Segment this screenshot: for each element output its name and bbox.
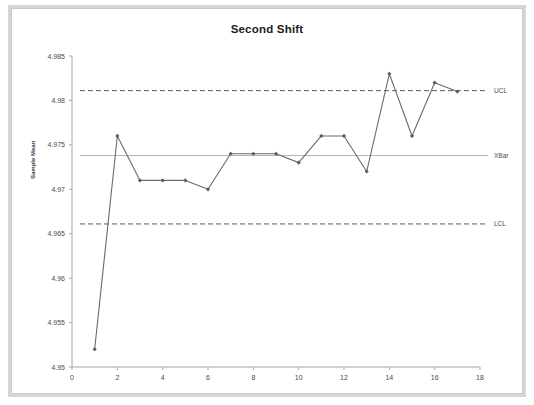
y-tick-label: 4.98 [51, 97, 65, 104]
data-point-marker [387, 72, 391, 76]
control-limit-labels: UCLXBarLCL [494, 87, 509, 227]
x-tick-label: 6 [206, 374, 210, 381]
x-axis-ticks: 024681012141618 [70, 367, 484, 381]
x-tick-label: 16 [431, 374, 439, 381]
x-tick-label: 4 [161, 374, 165, 381]
y-tick-label: 4.985 [47, 53, 65, 60]
y-tick-label: 4.965 [47, 230, 65, 237]
x-tick-label: 2 [115, 374, 119, 381]
x-tick-label: 12 [340, 374, 348, 381]
y-tick-label: 4.96 [51, 275, 65, 282]
x-tick-label: 14 [385, 374, 393, 381]
y-tick-label: 4.95 [51, 364, 65, 371]
x-tick-label: 0 [70, 374, 74, 381]
x-tick-label: 8 [251, 374, 255, 381]
y-tick-label: 4.975 [47, 141, 65, 148]
data-series-line [95, 74, 458, 349]
x-tick-label: 10 [295, 374, 303, 381]
data-point-marker [433, 81, 437, 85]
data-point-marker [183, 178, 187, 182]
y-tick-label: 4.97 [51, 186, 65, 193]
chart-plot-area: 4.954.9554.964.9654.974.9754.984.985 024… [12, 9, 524, 395]
control-limit-label-xbar: XBar [494, 152, 509, 159]
data-point-marker [93, 347, 97, 351]
y-tick-label: 4.955 [47, 319, 65, 326]
x-tick-label: 18 [476, 374, 484, 381]
data-point-marker [161, 178, 165, 182]
data-point-marker [410, 134, 414, 138]
data-point-marker [115, 134, 119, 138]
control-limit-label-ucl: UCL [494, 87, 507, 94]
control-limit-label-lcl: LCL [494, 220, 506, 227]
y-axis-ticks: 4.954.9554.964.9654.974.9754.984.985 [47, 53, 72, 371]
data-point-marker [138, 178, 142, 182]
data-point-marker [455, 89, 459, 93]
chart-frame: Second Shift Sample Mean 4.954.9554.964.… [11, 8, 523, 394]
